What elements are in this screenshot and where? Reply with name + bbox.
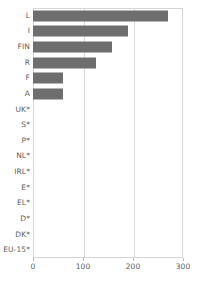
x-tick-mark xyxy=(33,258,34,261)
chart-row: I xyxy=(0,24,200,40)
category-label: EL* xyxy=(17,200,30,208)
category-label: NL* xyxy=(16,153,30,161)
bar-track xyxy=(33,242,183,258)
chart-row: L xyxy=(0,8,200,24)
bar-track xyxy=(33,24,183,40)
category-label: E* xyxy=(21,184,30,192)
bar-track xyxy=(33,71,183,87)
bar-track xyxy=(33,39,183,55)
category-label: F xyxy=(26,75,30,83)
bar-FIN[interactable] xyxy=(33,42,112,53)
bar-chart: LIFINRFAUK*S*P*NL*IRL*E*EL*D*DK*EU-15* 0… xyxy=(0,0,200,287)
x-tick-label: 0 xyxy=(31,263,36,271)
bar-L[interactable] xyxy=(33,10,168,21)
x-tick-label: 300 xyxy=(176,263,190,271)
chart-row: D* xyxy=(0,211,200,227)
chart-row: EL* xyxy=(0,196,200,212)
category-label: FIN xyxy=(18,43,30,51)
bar-track xyxy=(33,149,183,165)
bar-R[interactable] xyxy=(33,57,96,68)
bar-track xyxy=(33,196,183,212)
chart-row: S* xyxy=(0,117,200,133)
chart-row: DK* xyxy=(0,227,200,243)
category-label: DK* xyxy=(15,231,30,239)
chart-row: F xyxy=(0,71,200,87)
x-tick-mark xyxy=(183,258,184,261)
bar-F[interactable] xyxy=(33,73,63,84)
category-label: D* xyxy=(20,215,30,223)
chart-row: P* xyxy=(0,133,200,149)
chart-row: NL* xyxy=(0,149,200,165)
category-label: L xyxy=(26,12,30,20)
chart-row: IRL* xyxy=(0,164,200,180)
bar-track xyxy=(33,86,183,102)
chart-row: FIN xyxy=(0,39,200,55)
x-axis: 0100200300 xyxy=(33,258,183,284)
chart-row: EU-15* xyxy=(0,242,200,258)
x-tick-mark xyxy=(83,258,84,261)
bar-track xyxy=(33,180,183,196)
x-tick-mark xyxy=(133,258,134,261)
category-label: P* xyxy=(22,137,30,145)
category-label: EU-15* xyxy=(3,246,30,254)
chart-row: A xyxy=(0,86,200,102)
chart-row: UK* xyxy=(0,102,200,118)
category-label: R xyxy=(25,59,30,67)
category-label: A xyxy=(25,90,30,98)
x-tick-label: 100 xyxy=(76,263,90,271)
chart-row: R xyxy=(0,55,200,71)
category-label: I xyxy=(28,28,30,36)
bar-track xyxy=(33,8,183,24)
bar-track xyxy=(33,164,183,180)
bar-I[interactable] xyxy=(33,26,128,37)
bar-track xyxy=(33,133,183,149)
chart-row: E* xyxy=(0,180,200,196)
bar-track xyxy=(33,117,183,133)
category-label: IRL* xyxy=(14,168,30,176)
bar-track xyxy=(33,211,183,227)
bar-track xyxy=(33,55,183,71)
bar-track xyxy=(33,102,183,118)
category-label: UK* xyxy=(16,106,30,114)
x-tick-label: 200 xyxy=(126,263,140,271)
category-rows: LIFINRFAUK*S*P*NL*IRL*E*EL*D*DK*EU-15* xyxy=(0,8,200,258)
bar-track xyxy=(33,227,183,243)
category-label: S* xyxy=(21,121,30,129)
bar-A[interactable] xyxy=(33,88,63,99)
